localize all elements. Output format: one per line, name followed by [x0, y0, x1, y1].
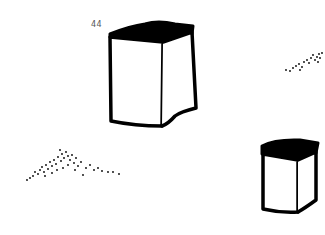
drawing-canvas: [0, 0, 325, 235]
large-box: [110, 22, 196, 126]
dot-cluster-left: [26, 149, 120, 181]
small-box: [262, 140, 318, 212]
dot-cluster-right: [285, 52, 323, 72]
